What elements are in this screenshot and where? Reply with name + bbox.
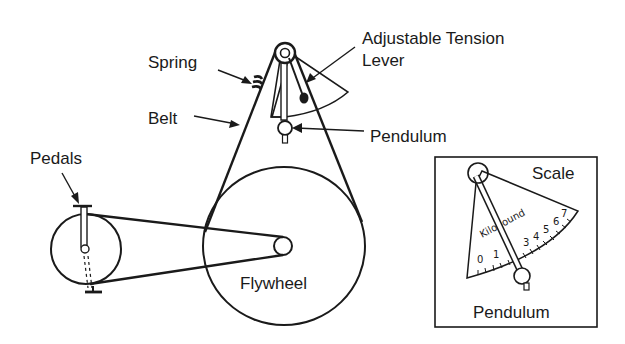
- ergometer-diagram: Spring Belt Adjustable Tension Lever Pen…: [0, 0, 625, 344]
- label-lever: Lever: [362, 51, 405, 70]
- scale-num-4: 4: [533, 231, 539, 242]
- scale-num-6: 6: [553, 216, 559, 227]
- scale-num-1: 1: [493, 249, 499, 260]
- spring-icon: [252, 76, 262, 89]
- scale-num-3: 3: [523, 237, 529, 248]
- label-spring: Spring: [148, 53, 197, 72]
- flywheel: [203, 167, 365, 325]
- label-flywheel: Flywheel: [240, 274, 307, 293]
- scale-inset: Scale 0 1 3 4 5 6 7 Kilopound: [435, 157, 597, 327]
- flywheel-hub: [274, 237, 292, 255]
- crank-arm: [81, 207, 87, 247]
- pendulum-bob: [278, 121, 292, 135]
- tension-lever-knob: [300, 93, 309, 104]
- crank-hub: [81, 245, 89, 253]
- scale-num-7: 7: [561, 208, 567, 219]
- label-belt: Belt: [148, 109, 178, 128]
- inset-label-pendulum: Pendulum: [473, 303, 550, 322]
- pedal-wheel: [51, 206, 121, 292]
- label-pedals: Pedals: [30, 149, 82, 168]
- inset-pendulum-bob: [514, 268, 530, 284]
- annotation-arrows: [62, 47, 364, 204]
- scale-num-0: 0: [477, 254, 483, 265]
- inset-title-scale: Scale: [532, 164, 575, 183]
- pendulum-rod: [281, 58, 287, 120]
- label-pendulum: Pendulum: [370, 127, 447, 146]
- scale-num-5: 5: [543, 224, 549, 235]
- label-adjustable-tension: Adjustable Tension: [362, 29, 504, 48]
